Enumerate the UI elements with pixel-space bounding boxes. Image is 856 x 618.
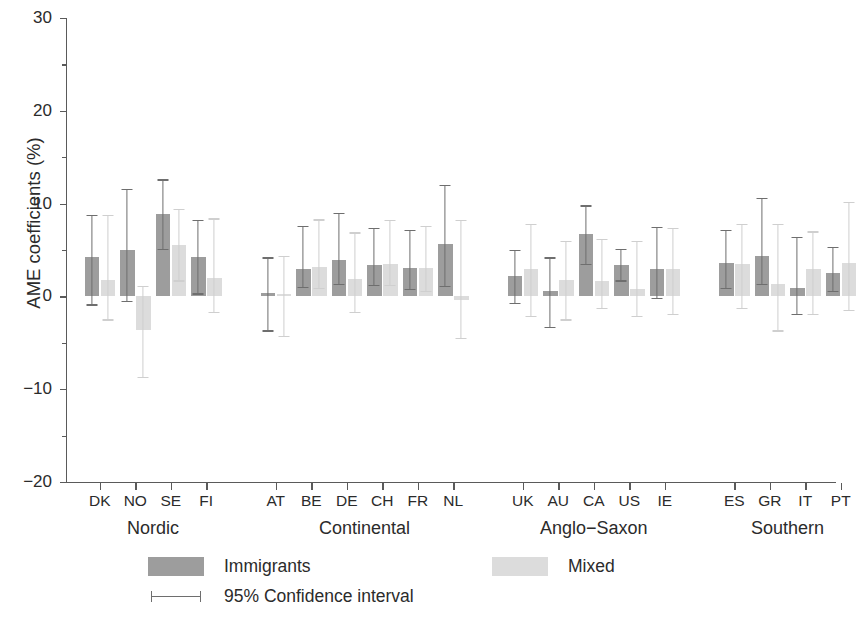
confidence-interval-FI-mixed: [207, 218, 222, 313]
confidence-interval-IT-immigrants: [790, 237, 805, 315]
x-tick-PT: [841, 483, 842, 490]
x-axis-label-US: US: [618, 492, 640, 510]
legend-item-immigrants: Immigrants: [148, 556, 311, 577]
y-tick-label-0: 0: [6, 287, 52, 304]
confidence-interval-US-immigrants: [614, 249, 629, 281]
x-axis-line: [66, 482, 836, 483]
x-tick-GR: [770, 483, 771, 490]
confidence-interval-IT-mixed: [806, 231, 821, 315]
x-tick-UK: [523, 483, 524, 490]
confidence-interval-UK-immigrants: [508, 250, 523, 304]
x-axis-label-BE: BE: [301, 492, 322, 510]
x-axis-label-UK: UK: [512, 492, 534, 510]
confidence-interval-FR-mixed: [419, 226, 434, 292]
legend-label-confidence-interval: 95% Confidence interval: [224, 586, 414, 607]
x-axis-label-ES: ES: [724, 492, 745, 510]
y-tick-label-30: 30: [6, 9, 52, 26]
group-label-continental: Continental: [319, 518, 410, 539]
confidence-interval-PT-immigrants: [826, 247, 841, 292]
x-axis-label-IE: IE: [657, 492, 672, 510]
x-axis-label-CA: CA: [583, 492, 605, 510]
y-tick-label--20: −20: [6, 473, 52, 490]
confidence-interval-UK-mixed: [524, 224, 539, 317]
confidence-interval-AT-mixed: [277, 256, 292, 338]
x-axis-label-FI: FI: [199, 492, 213, 510]
x-axis-label-FR: FR: [407, 492, 428, 510]
x-tick-FI: [206, 483, 207, 490]
confidence-interval-IE-immigrants: [650, 227, 665, 299]
plot-area: [66, 18, 836, 482]
x-axis-label-DE: DE: [336, 492, 358, 510]
x-axis-label-AU: AU: [547, 492, 569, 510]
x-tick-FR: [418, 483, 419, 490]
legend-label-immigrants: Immigrants: [224, 556, 311, 577]
confidence-interval-IE-mixed: [666, 228, 681, 315]
confidence-interval-DK-mixed: [101, 215, 116, 321]
x-axis-label-SE: SE: [160, 492, 181, 510]
confidence-interval-NO-immigrants: [120, 189, 135, 302]
confidence-interval-DE-immigrants: [332, 213, 347, 285]
confidence-interval-GR-mixed: [771, 224, 786, 332]
x-axis-label-NO: NO: [124, 492, 147, 510]
x-tick-IE: [665, 483, 666, 490]
x-tick-BE: [311, 483, 312, 490]
y-tick--20: [60, 482, 67, 483]
x-axis-label-CH: CH: [371, 492, 393, 510]
x-tick-AU: [558, 483, 559, 490]
legend-swatch-mixed: [492, 557, 548, 576]
confidence-interval-AT-immigrants: [261, 257, 276, 331]
confidence-interval-FI-immigrants: [191, 220, 206, 294]
x-axis-label-IT: IT: [798, 492, 812, 510]
x-axis-label-AT: AT: [266, 492, 285, 510]
x-tick-AT: [276, 483, 277, 490]
confidence-interval-NL-mixed: [454, 220, 469, 339]
x-tick-US: [629, 483, 630, 490]
x-axis-label-PT: PT: [831, 492, 851, 510]
x-axis-label-DK: DK: [89, 492, 111, 510]
group-label-nordic: Nordic: [127, 518, 179, 539]
confidence-interval-SE-immigrants: [156, 179, 171, 250]
confidence-interval-PT-mixed: [842, 202, 856, 312]
x-tick-DE: [347, 483, 348, 490]
confidence-interval-NO-mixed: [136, 286, 151, 378]
confidence-interval-SE-mixed: [172, 209, 187, 281]
group-label-anglo-saxon: Anglo−Saxon: [540, 518, 648, 539]
x-tick-CA: [594, 483, 595, 490]
legend-item-confidence-interval: 95% Confidence interval: [148, 586, 414, 607]
confidence-interval-BE-immigrants: [296, 226, 311, 288]
confidence-interval-CH-mixed: [383, 220, 398, 286]
confidence-interval-ES-immigrants: [719, 230, 734, 289]
legend-swatch-immigrants: [148, 557, 204, 576]
chart-legend: Immigrants Mixed 95% Confidence interval: [0, 552, 845, 618]
confidence-interval-AU-mixed: [559, 241, 574, 321]
confidence-interval-NL-immigrants: [438, 185, 453, 287]
x-tick-CH: [382, 483, 383, 490]
x-tick-NO: [135, 483, 136, 490]
confidence-interval-GR-immigrants: [755, 198, 770, 285]
confidence-interval-CH-immigrants: [367, 228, 382, 286]
x-tick-IT: [805, 483, 806, 490]
x-tick-NL: [453, 483, 454, 490]
confidence-interval-DE-mixed: [348, 232, 363, 313]
legend-item-mixed: Mixed: [492, 556, 615, 577]
confidence-interval-ES-mixed: [735, 224, 750, 309]
y-axis-title: AME coefficients (%): [23, 93, 45, 353]
x-tick-SE: [171, 483, 172, 490]
confidence-interval-CA-immigrants: [579, 205, 594, 264]
y-tick-label-20: 20: [6, 102, 52, 119]
x-tick-DK: [100, 483, 101, 490]
confidence-interval-CA-mixed: [595, 239, 610, 310]
legend-label-mixed: Mixed: [568, 556, 615, 577]
confidence-interval-AU-immigrants: [543, 257, 558, 328]
x-tick-ES: [734, 483, 735, 490]
x-axis-label-GR: GR: [758, 492, 781, 510]
x-axis-label-NL: NL: [443, 492, 463, 510]
confidence-interval-DK-immigrants: [85, 215, 100, 306]
y-tick-label--10: −10: [6, 380, 52, 397]
group-label-southern: Southern: [751, 518, 824, 539]
confidence-interval-icon: [148, 587, 204, 606]
confidence-interval-US-mixed: [630, 241, 645, 317]
confidence-interval-FR-immigrants: [403, 230, 418, 290]
y-tick-label-10: 10: [6, 195, 52, 212]
